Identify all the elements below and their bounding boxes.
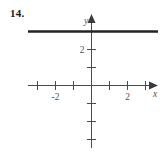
coordinate-plane-graph: -2 2 2 y x [0, 0, 167, 160]
y-axis-tick-label-positive: 2 [80, 45, 85, 55]
x-axis-tick-label-negative: -2 [52, 92, 60, 102]
x-axis-tick-label-positive: 2 [125, 92, 130, 102]
y-axis-arrow-icon [88, 14, 96, 23]
x-axis-label: x [152, 89, 158, 99]
figure-container: 14. -2 2 2 y x [0, 0, 167, 160]
y-axis-label: y [83, 16, 89, 26]
